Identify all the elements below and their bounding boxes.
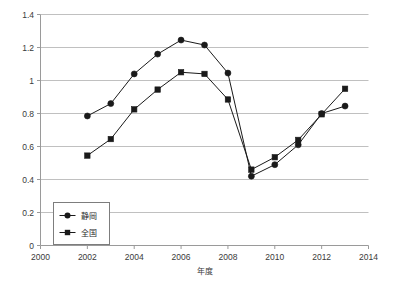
x-tick-label: 2014 bbox=[359, 252, 378, 262]
data-point-marker bbox=[108, 101, 114, 107]
x-tick-label: 2012 bbox=[312, 252, 331, 262]
legend-label-0: 静岡 bbox=[81, 211, 97, 221]
x-tick-label: 2008 bbox=[218, 252, 237, 262]
chart-canvas: 00.20.40.60.811.21.4 2000200220042006200… bbox=[0, 0, 398, 285]
data-point-marker bbox=[342, 86, 347, 91]
x-tick-label: 2004 bbox=[125, 252, 144, 262]
series-line-0 bbox=[87, 40, 345, 176]
legend-marker-square bbox=[65, 230, 70, 235]
chart-legend: 静岡全国 bbox=[54, 203, 110, 245]
legend-label-1: 全国 bbox=[81, 228, 97, 238]
y-tick-label: 1 bbox=[29, 76, 34, 86]
data-point-marker bbox=[202, 71, 207, 76]
x-tick-label: 2002 bbox=[78, 252, 97, 262]
y-tick-label: 1.4 bbox=[22, 10, 34, 20]
data-point-marker bbox=[178, 37, 184, 43]
x-axis-title: 年度 bbox=[197, 266, 213, 276]
y-tick-label: 0.8 bbox=[22, 109, 34, 119]
data-point-marker bbox=[272, 162, 278, 168]
data-point-marker bbox=[296, 137, 301, 142]
data-point-marker bbox=[319, 112, 324, 117]
data-point-marker bbox=[342, 103, 348, 109]
data-point-marker bbox=[202, 42, 208, 48]
data-series-layer bbox=[84, 37, 348, 179]
data-point-marker bbox=[155, 51, 161, 57]
x-tick-label: 2010 bbox=[265, 252, 284, 262]
x-axis-ticks bbox=[41, 246, 369, 250]
data-point-marker bbox=[225, 97, 230, 102]
y-tick-label: 0.2 bbox=[22, 208, 34, 218]
series-line-1 bbox=[87, 72, 345, 169]
y-tick-label: 0 bbox=[29, 241, 34, 251]
y-tick-label: 0.4 bbox=[22, 175, 34, 185]
y-tick-label: 0.6 bbox=[22, 142, 34, 152]
x-tick-label: 2000 bbox=[31, 252, 50, 262]
data-point-marker bbox=[225, 70, 231, 76]
data-point-marker bbox=[155, 87, 160, 92]
data-point-marker bbox=[131, 71, 137, 77]
data-point-marker bbox=[178, 70, 183, 75]
x-tick-label: 2006 bbox=[172, 252, 191, 262]
data-point-marker bbox=[84, 113, 90, 119]
x-axis-tick-labels: 20002002200420062008201020122014 bbox=[31, 252, 378, 262]
legend-box bbox=[54, 203, 110, 245]
data-point-marker bbox=[249, 167, 254, 172]
line-chart: 00.20.40.60.811.21.4 2000200220042006200… bbox=[0, 0, 398, 285]
data-point-marker bbox=[85, 153, 90, 158]
data-point-marker bbox=[272, 155, 277, 160]
data-point-marker bbox=[108, 136, 113, 141]
y-tick-label: 1.2 bbox=[22, 43, 34, 53]
y-axis-tick-labels: 00.20.40.60.811.21.4 bbox=[22, 10, 34, 251]
data-point-marker bbox=[132, 107, 137, 112]
data-point-marker bbox=[248, 173, 254, 179]
legend-marker-circle bbox=[65, 213, 71, 219]
